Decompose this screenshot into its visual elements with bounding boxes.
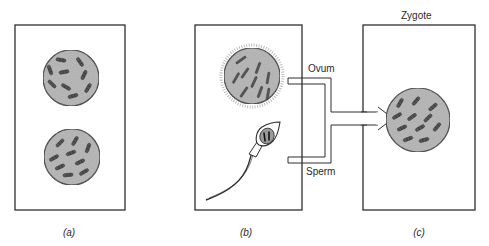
caption-a: (a)	[54, 227, 84, 239]
diagram-canvas	[0, 0, 489, 246]
zygote-cell	[386, 88, 450, 152]
sperm-label: Sperm	[306, 166, 335, 178]
caption-c: (c)	[404, 227, 434, 239]
fertilization-diagram: Zygote Ovum Sperm (a) (b) (c)	[0, 0, 489, 246]
caption-b: (b)	[231, 227, 261, 239]
fusion-connector[interactable]	[288, 78, 393, 163]
diploid-cell-1	[43, 50, 99, 106]
zygote-title: Zygote	[401, 10, 432, 22]
panel-b	[195, 25, 302, 210]
diploid-cell-2	[44, 129, 100, 185]
panel-a	[15, 25, 125, 210]
ovum-label: Ovum	[308, 63, 335, 75]
